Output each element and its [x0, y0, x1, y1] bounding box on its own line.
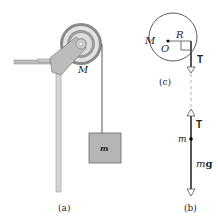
weight-label: mg — [196, 159, 212, 169]
pulley-assembly — [50, 23, 102, 75]
free-body-block — [187, 109, 195, 196]
block-point-label: m — [178, 135, 187, 144]
caption-a: (a) — [58, 204, 70, 213]
tension-label-c: T — [197, 55, 203, 65]
block-mass-label: m — [100, 144, 108, 152]
radius-label: R — [176, 30, 184, 40]
disk-mass-label: M — [145, 36, 155, 46]
tension-label-b: T — [196, 120, 202, 130]
center-label: O — [161, 44, 169, 54]
caption-b: (b) — [184, 204, 197, 213]
table — [14, 59, 61, 192]
free-body-pulley — [149, 13, 197, 108]
diagram-canvas — [0, 0, 218, 222]
pulley-mass-label: M — [78, 65, 88, 75]
caption-c: (c) — [159, 78, 171, 87]
